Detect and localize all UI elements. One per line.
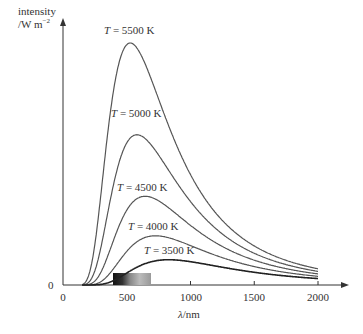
- label-5500k: T = 5500 K: [104, 24, 155, 36]
- label-3500k: T = 3500 K: [144, 244, 195, 256]
- label-5000k-text: = 5000 K: [120, 107, 162, 119]
- x-ticks: [127, 281, 318, 285]
- curve-5500k: [82, 43, 318, 285]
- visible-spectrum-band: [113, 273, 151, 285]
- t-symbol: T: [128, 220, 134, 232]
- x-tick-0: 0: [60, 291, 66, 303]
- label-4500k: T = 4500 K: [117, 181, 168, 193]
- x-tick-500: 500: [119, 291, 136, 303]
- t-symbol: T: [144, 244, 150, 256]
- y-axis-label-line1: intensity: [18, 5, 56, 17]
- label-4000k: T = 4000 K: [128, 220, 179, 232]
- label-3500k-text: = 3500 K: [153, 244, 195, 256]
- x-tick-1500: 1500: [243, 291, 265, 303]
- blackbody-chart: intensity /W m−2 0 0 500 1000 1500 2000 …: [0, 0, 363, 334]
- label-5000k: T = 5000 K: [111, 107, 162, 119]
- label-5500k-text: = 5500 K: [113, 24, 155, 36]
- label-4000k-text: = 4000 K: [137, 220, 179, 232]
- y-axis-unit: /W m: [18, 18, 43, 30]
- x-tick-2000: 2000: [307, 291, 329, 303]
- x-axis-unit: /nm: [183, 308, 200, 320]
- x-tick-1000: 1000: [180, 291, 202, 303]
- y-zero-label: 0: [48, 279, 54, 291]
- x-axis-label: λ/nm: [178, 308, 200, 320]
- plot-area: [0, 0, 363, 334]
- y-axis-unit-exponent: −2: [43, 17, 50, 25]
- t-symbol: T: [111, 107, 117, 119]
- t-symbol: T: [117, 181, 123, 193]
- t-symbol: T: [104, 24, 110, 36]
- y-axis-label-line2: /W m−2: [18, 17, 50, 30]
- curves: [82, 43, 318, 285]
- label-4500k-text: = 4500 K: [126, 181, 168, 193]
